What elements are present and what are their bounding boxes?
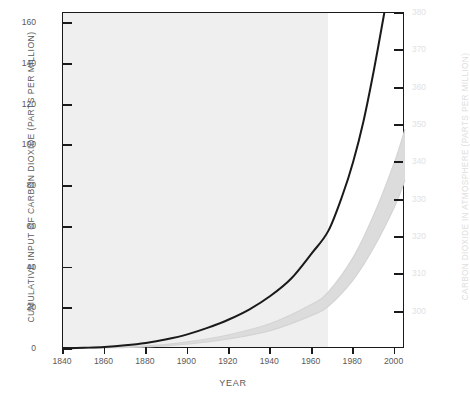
x-tick [394, 347, 396, 354]
y-tick-left [63, 63, 72, 65]
y-tick-label-left: 20 [0, 302, 36, 312]
y-axis-right-title: CARBON DIOXIDE IN ATMOSPHERE (PARTS PER … [461, 12, 470, 342]
y-tick-label-right: 340 [412, 156, 446, 166]
y-tick-label-right: 300 [412, 306, 446, 316]
y-tick-left [63, 267, 72, 269]
y-tick-right [394, 161, 403, 163]
y-tick-label-right: 350 [412, 119, 446, 129]
x-tick-label: 1960 [288, 356, 334, 366]
y-tick-label-left: 80 [0, 180, 36, 190]
x-tick-label: 2000 [371, 356, 417, 366]
y-tick-right [394, 12, 403, 14]
x-tick [187, 347, 189, 354]
x-tick-label: 1900 [163, 356, 209, 366]
y-tick-left [63, 144, 72, 146]
y-tick-label-left: 40 [0, 262, 36, 272]
y-tick-right [394, 124, 403, 126]
y-tick-label-left: 120 [0, 99, 36, 109]
x-tick-label: 1860 [80, 356, 126, 366]
x-axis-title: YEAR [62, 378, 404, 388]
x-tick [145, 347, 147, 354]
y-tick-right [394, 87, 403, 89]
y-tick-label-left: 140 [0, 58, 36, 68]
y-tick-left [63, 226, 72, 228]
y-tick-label-left: 60 [0, 221, 36, 231]
y-tick-left [63, 104, 72, 106]
y-tick-right [394, 273, 403, 275]
y-tick-label-right: 380 [412, 7, 446, 17]
y-tick-right [394, 236, 403, 238]
y-tick-left [63, 185, 72, 187]
plot-area [62, 12, 404, 348]
y-tick-left [63, 22, 72, 24]
x-tick [62, 347, 64, 354]
y-tick-label-right: 370 [412, 44, 446, 54]
x-tick [228, 347, 230, 354]
x-tick-label: 1880 [122, 356, 168, 366]
y-tick-label-left: 100 [0, 139, 36, 149]
x-tick [269, 347, 271, 354]
x-tick-label: 1940 [246, 356, 292, 366]
y-tick-right [394, 49, 403, 51]
x-tick-label: 1920 [205, 356, 251, 366]
y-tick-right [394, 199, 403, 201]
x-tick [352, 347, 354, 354]
x-tick [311, 347, 313, 354]
y-tick-right [394, 311, 403, 313]
y-tick-label-left: 0 [0, 343, 36, 353]
y-tick-label-right: 360 [412, 82, 446, 92]
x-tick-label: 1840 [39, 356, 85, 366]
y-tick-label-right: 330 [412, 194, 446, 204]
data-layer [63, 13, 405, 349]
y-tick-label-right: 320 [412, 231, 446, 241]
y-tick-left [63, 307, 72, 309]
y-tick-label-right: 310 [412, 268, 446, 278]
x-tick-label: 1980 [329, 356, 375, 366]
x-tick [104, 347, 106, 354]
y-tick-left [63, 348, 72, 350]
y-tick-label-left: 160 [0, 17, 36, 27]
